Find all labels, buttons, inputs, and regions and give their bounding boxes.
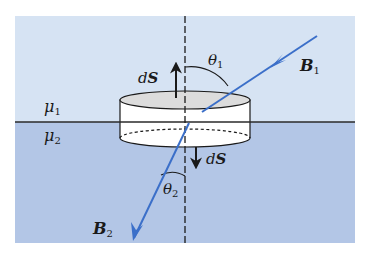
- boundary-diagram: μ1 μ2 dS dS θ1 θ2 B1 B2: [0, 0, 366, 260]
- ds-up-label: dS: [138, 69, 159, 87]
- ds-down-label: dS: [206, 150, 227, 168]
